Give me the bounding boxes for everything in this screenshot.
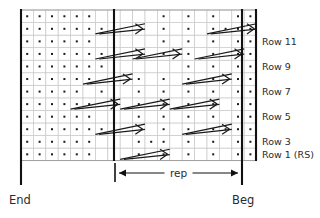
chart-cell (83, 85, 95, 98)
purl-dot-icon (51, 103, 53, 105)
rep-label: rep (170, 167, 188, 179)
purl-dot-icon (76, 28, 78, 30)
purl-dot-icon (249, 116, 251, 118)
purl-dot-icon (88, 65, 90, 67)
purl-dot-icon (212, 65, 214, 67)
purl-dot-icon (76, 141, 78, 143)
row-label: Row 9 (262, 61, 291, 72)
purl-dot-icon (138, 91, 140, 93)
purl-dot-icon (249, 91, 251, 93)
purl-dot-icon (26, 153, 28, 155)
purl-dot-icon (237, 40, 239, 42)
purl-dot-icon (163, 15, 165, 17)
end-label: End (9, 193, 31, 207)
row-label: Row 7 (262, 86, 291, 97)
purl-dot-icon (63, 65, 65, 67)
chart-cell (120, 35, 132, 48)
purl-dot-icon (76, 65, 78, 67)
purl-dot-icon (51, 40, 53, 42)
purl-dot-icon (163, 91, 165, 93)
purl-dot-icon (249, 15, 251, 17)
purl-dot-icon (88, 28, 90, 30)
purl-dot-icon (138, 141, 140, 143)
purl-dot-icon (138, 116, 140, 118)
purl-dot-icon (76, 91, 78, 93)
purl-dot-icon (237, 103, 239, 105)
purl-dot-icon (51, 53, 53, 55)
purl-dot-icon (101, 91, 103, 93)
purl-dot-icon (63, 15, 65, 17)
purl-dot-icon (63, 78, 65, 80)
chart-cell (195, 60, 207, 73)
chart-cell (170, 35, 182, 48)
purl-dot-icon (187, 128, 189, 130)
row-label: Row 1 (RS) (262, 149, 314, 160)
chart-cell (195, 10, 207, 23)
knitting-chart: rep Row 11Row 9Row 7Row 5Row 3Row 1 (RS)… (0, 0, 320, 218)
purl-dot-icon (39, 65, 41, 67)
chart-cell (219, 98, 231, 111)
chart-cell (133, 60, 145, 73)
chart-cell (170, 73, 182, 86)
purl-dot-icon (26, 103, 28, 105)
purl-dot-icon (212, 91, 214, 93)
purl-dot-icon (51, 65, 53, 67)
chart-cell (170, 148, 182, 161)
purl-dot-icon (101, 28, 103, 30)
chart-cell (195, 110, 207, 123)
purl-dot-icon (39, 28, 41, 30)
chart-cell (195, 85, 207, 98)
purl-dot-icon (187, 65, 189, 67)
purl-dot-icon (63, 128, 65, 130)
chart-cell (219, 10, 231, 23)
purl-dot-icon (249, 103, 251, 105)
purl-dot-icon (51, 78, 53, 80)
purl-dot-icon (88, 116, 90, 118)
purl-dot-icon (150, 141, 152, 143)
purl-dot-icon (249, 128, 251, 130)
purl-dot-icon (212, 141, 214, 143)
purl-dot-icon (51, 153, 53, 155)
purl-dot-icon (187, 28, 189, 30)
chart-cell (195, 136, 207, 149)
chart-cell (170, 10, 182, 23)
purl-dot-icon (39, 53, 41, 55)
purl-dot-icon (76, 53, 78, 55)
purl-dot-icon (51, 91, 53, 93)
purl-dot-icon (163, 78, 165, 80)
purl-dot-icon (63, 103, 65, 105)
chart-cell (145, 85, 157, 98)
purl-dot-icon (76, 153, 78, 155)
chart-cell (145, 60, 157, 73)
purl-dot-icon (76, 103, 78, 105)
purl-dot-icon (237, 91, 239, 93)
purl-dot-icon (187, 153, 189, 155)
chart-cell (95, 35, 107, 48)
purl-dot-icon (237, 141, 239, 143)
chart-cell (145, 10, 157, 23)
purl-dot-icon (212, 28, 214, 30)
purl-dot-icon (187, 40, 189, 42)
purl-dot-icon (26, 15, 28, 17)
purl-dot-icon (237, 65, 239, 67)
purl-dot-icon (26, 65, 28, 67)
purl-dot-icon (138, 78, 140, 80)
purl-dot-icon (237, 128, 239, 130)
purl-dot-icon (249, 40, 251, 42)
chart-cell (219, 110, 231, 123)
purl-dot-icon (88, 141, 90, 143)
purl-dot-icon (39, 153, 41, 155)
purl-dot-icon (88, 15, 90, 17)
beg-label: Beg (232, 193, 254, 207)
chart-cell (120, 60, 132, 73)
chart-cell (170, 123, 182, 136)
row-label: Row 11 (262, 36, 297, 47)
purl-dot-icon (88, 53, 90, 55)
chart-cell (219, 148, 231, 161)
purl-dot-icon (63, 40, 65, 42)
purl-dot-icon (51, 128, 53, 130)
purl-dot-icon (51, 116, 53, 118)
chart-cell (145, 123, 157, 136)
purl-dot-icon (163, 28, 165, 30)
chart-cell (145, 23, 157, 36)
